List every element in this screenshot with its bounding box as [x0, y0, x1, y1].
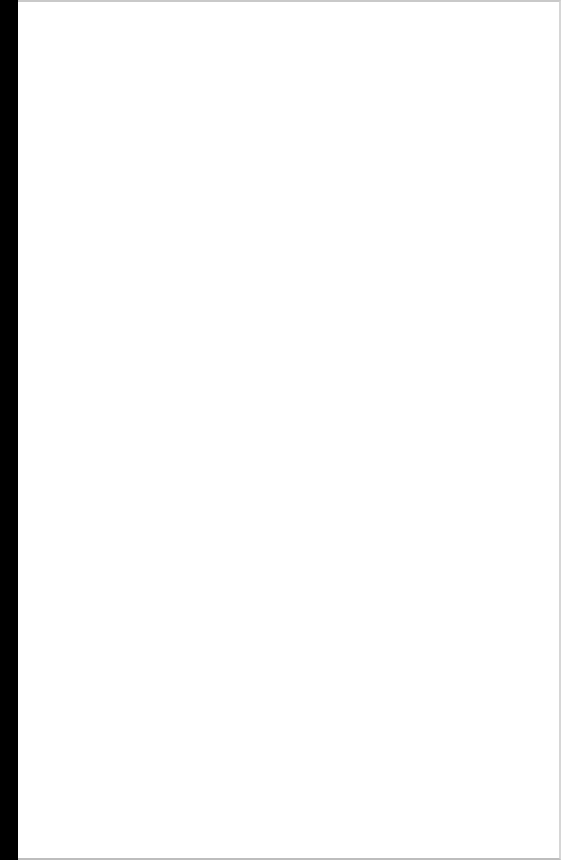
scan-binding-edge	[0, 0, 18, 860]
page-sheet	[18, 0, 561, 860]
page-content	[58, 42, 519, 818]
scanned-page	[0, 0, 561, 860]
